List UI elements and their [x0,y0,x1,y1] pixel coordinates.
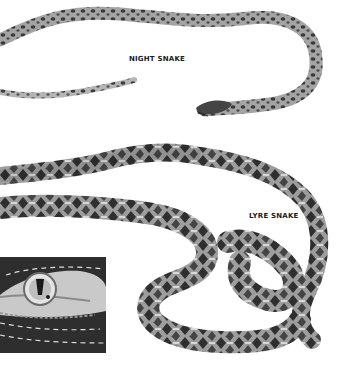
night-snake [0,13,316,116]
head-detail-inset [0,257,106,353]
night-snake-label: NIGHT SNAKE [129,55,185,63]
eye-closeup-icon [0,257,106,353]
lyre-snake-label: LYRE SNAKE [249,212,299,220]
night-snake-tail [0,80,134,96]
snake-illustration-page: NIGHT SNAKE LYRE SNAKE [0,0,348,366]
